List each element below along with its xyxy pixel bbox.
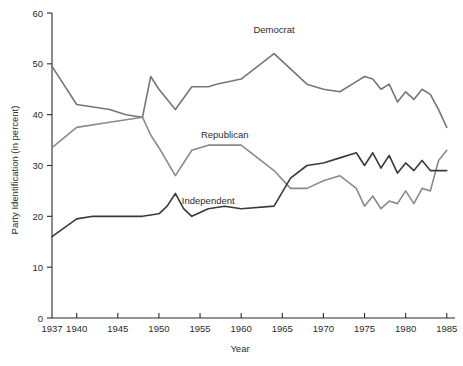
series-line-independent	[52, 153, 447, 237]
x-tick-label: 1980	[395, 323, 416, 334]
series-line-republican	[52, 117, 447, 209]
chart-canvas: 0102030405060193719401945195019551960196…	[0, 0, 463, 366]
x-tick-label: 1965	[272, 323, 293, 334]
x-tick-label: 1940	[66, 323, 87, 334]
y-axis-title: Party Identification (in percent)	[9, 106, 20, 235]
x-tick-label: 1937	[41, 323, 62, 334]
y-tick-label: 40	[32, 109, 43, 120]
y-tick-label: 0	[38, 313, 43, 324]
x-tick-label: 1950	[148, 323, 169, 334]
party-identification-chart: 0102030405060193719401945195019551960196…	[0, 0, 463, 366]
x-tick-label: 1945	[107, 323, 128, 334]
x-tick-label: 1955	[189, 323, 210, 334]
series-labels: DemocratRepublicanIndependent	[182, 24, 295, 205]
x-tick-label: 1985	[436, 323, 457, 334]
x-tick-label: 1970	[313, 323, 334, 334]
y-tick-label: 30	[32, 160, 43, 171]
data-series	[52, 54, 447, 237]
x-tick-label: 1960	[231, 323, 252, 334]
y-tick-label: 20	[32, 211, 43, 222]
tick-marks	[47, 13, 447, 318]
x-axis-title: Year	[230, 343, 249, 354]
x-tick-label: 1975	[354, 323, 375, 334]
series-label-independent: Independent	[182, 195, 235, 206]
y-tick-label: 50	[32, 58, 43, 69]
series-label-democrat: Democrat	[253, 24, 295, 35]
series-label-republican: Republican	[201, 129, 249, 140]
y-tick-label: 10	[32, 262, 43, 273]
y-tick-label: 60	[32, 8, 43, 19]
tick-labels: 0102030405060193719401945195019551960196…	[32, 8, 457, 335]
series-line-democrat	[52, 54, 447, 128]
